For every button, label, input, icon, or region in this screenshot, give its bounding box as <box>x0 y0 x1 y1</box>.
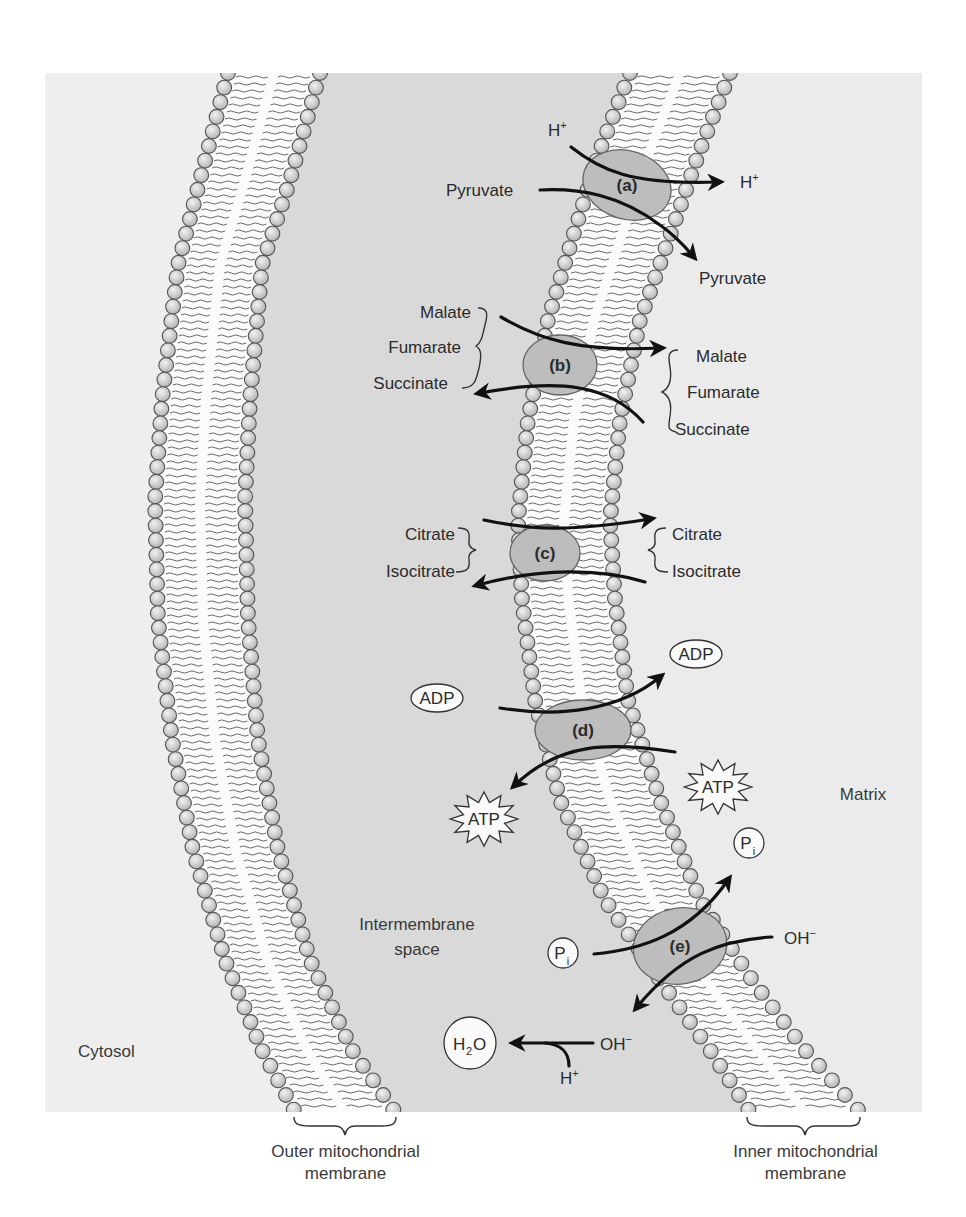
label-b-left-fumarate: Fumarate <box>388 338 461 357</box>
svg-text:(b): (b) <box>549 356 571 375</box>
adp-left-badge: ADP <box>411 684 463 712</box>
inner-caption-line1: Inner mitochondrial <box>703 1141 908 1163</box>
label-c-left-isocitrate: Isocitrate <box>386 562 455 581</box>
pi-left-badge: P i <box>548 938 578 968</box>
label-cytosol: Cytosol <box>78 1042 135 1061</box>
inner-caption-line2: membrane <box>703 1163 908 1185</box>
outer-membrane-caption: Outer mitochondrial membrane <box>243 1141 448 1185</box>
label-c-right-isocitrate: Isocitrate <box>672 562 741 581</box>
brace-outer-membrane <box>294 1117 396 1135</box>
svg-text:ADP: ADP <box>679 645 714 664</box>
pi-right-badge: P i <box>734 828 764 858</box>
svg-text:i: i <box>753 845 755 857</box>
label-b-left-malate: Malate <box>420 303 471 322</box>
svg-text:ATP: ATP <box>702 778 734 797</box>
svg-text:ADP: ADP <box>420 689 455 708</box>
svg-text:(e): (e) <box>670 937 691 956</box>
adp-right-badge: ADP <box>670 640 722 668</box>
label-b-left-succinate: Succinate <box>373 374 448 393</box>
svg-text:(d): (d) <box>572 721 594 740</box>
svg-text:P: P <box>554 944 565 963</box>
inner-membrane-caption: Inner mitochondrial membrane <box>703 1141 908 1185</box>
svg-text:O: O <box>473 1035 486 1054</box>
label-a-pyruvate-in: Pyruvate <box>446 181 513 200</box>
outer-caption-line2: membrane <box>243 1163 448 1185</box>
svg-text:(c): (c) <box>535 544 556 563</box>
svg-text:H: H <box>453 1035 465 1054</box>
label-c-left-citrate: Citrate <box>405 525 455 544</box>
svg-text:ATP: ATP <box>468 810 500 829</box>
label-intermembrane-line2: space <box>394 940 439 959</box>
svg-text:i: i <box>567 955 569 967</box>
h2o-badge: H 2 O <box>444 1017 496 1069</box>
mitochondrial-transport-diagram: (a)(b)(c)(d)(e) ADP <box>0 0 966 1217</box>
svg-text:(a): (a) <box>617 176 638 195</box>
svg-text:P: P <box>740 834 751 853</box>
label-b-right-succinate: Succinate <box>675 420 750 439</box>
label-intermembrane-line1: Intermembrane <box>359 915 474 934</box>
label-a-pyruvate-out: Pyruvate <box>699 269 766 288</box>
svg-text:2: 2 <box>466 1045 472 1057</box>
label-b-right-fumarate: Fumarate <box>687 383 760 402</box>
outer-caption-line1: Outer mitochondrial <box>243 1141 448 1163</box>
label-matrix: Matrix <box>840 785 887 804</box>
brace-inner-membrane <box>747 1117 860 1135</box>
label-c-right-citrate: Citrate <box>672 525 722 544</box>
label-b-right-malate: Malate <box>696 347 747 366</box>
